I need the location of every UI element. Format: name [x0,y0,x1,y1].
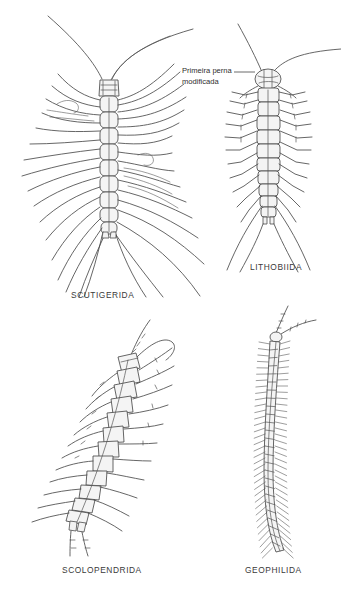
callout-line-2: modificada [182,77,232,88]
figure-label-lithobiida: LITHOBIIDA [250,262,302,272]
lithobiida-head [255,69,281,89]
figure-label-scolopendrida: SCOLOPENDRIDA [62,565,142,575]
lithobiida-body [257,88,280,217]
figure-label-scutigerida: SCUTIGERIDA [71,290,134,300]
geophilida-head [270,332,282,342]
scutigerida-legs-left [22,74,105,297]
scutigerida-head [99,80,119,96]
lithobiida-legs-left [225,92,262,270]
figure-geophilida [254,306,316,558]
scolopendrida-terminal [69,521,90,556]
figure-scolopendrida [32,320,174,556]
figure-scutigerida [22,16,204,297]
scutigerida-body [100,96,118,234]
scutigerida-terminal-legs [84,232,146,297]
geophilida-antennae [276,306,316,334]
centipede-plate-svg: .ln{fill:none;stroke:#4a4a4a;stroke-widt… [0,0,341,594]
callout-primeira-perna-modificada: Primeira perna modificada [182,66,232,87]
figure-lithobiida [225,24,341,272]
scutigerida-legs-right [114,64,204,297]
scolopendrida-body [66,360,140,525]
lithobiida-legs-right [275,92,312,270]
lithobiida-antennae [238,24,341,72]
scutigerida-antennae [48,16,193,80]
figure-label-geophilida: GEOPHILIDA [245,565,302,575]
scolopendrida-antennae [131,320,174,360]
illustration-plate: .ln{fill:none;stroke:#4a4a4a;stroke-widt… [0,0,341,594]
callout-line-1: Primeira perna [182,66,232,77]
